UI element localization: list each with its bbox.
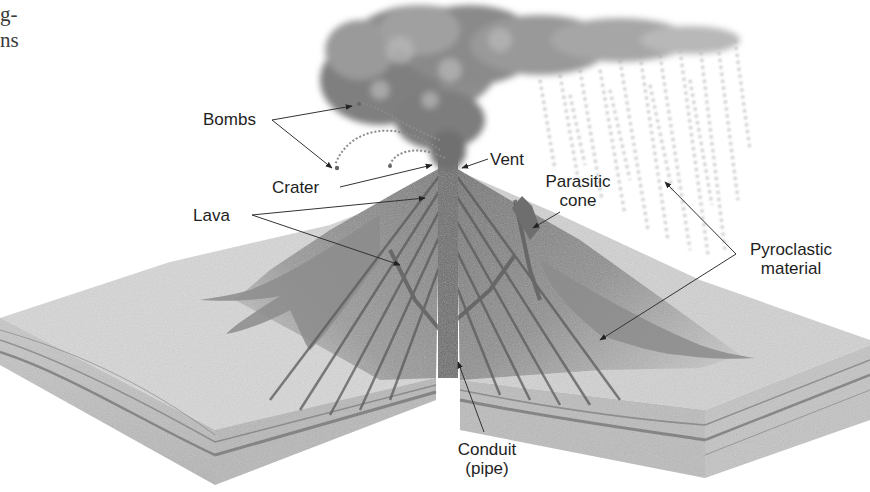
label-parasitic-line1: Parasitic — [542, 172, 614, 191]
label-pyroclastic-line1: Pyroclastic — [736, 240, 846, 259]
label-conduit-line2: (pipe) — [452, 459, 522, 478]
label-pyroclastic-material: Pyroclastic material — [736, 240, 846, 278]
label-crater: Crater — [272, 178, 319, 197]
label-vent: Vent — [490, 150, 524, 169]
conduit-pipe — [438, 160, 458, 378]
label-pyroclastic-line2: material — [736, 259, 846, 278]
label-lava: Lava — [193, 206, 230, 225]
label-bombs: Bombs — [203, 110, 256, 129]
label-parasitic-cone: Parasitic cone — [542, 172, 614, 210]
label-conduit-line1: Conduit — [452, 440, 522, 459]
label-parasitic-line2: cone — [542, 191, 614, 210]
label-conduit-pipe: Conduit (pipe) — [452, 440, 522, 478]
